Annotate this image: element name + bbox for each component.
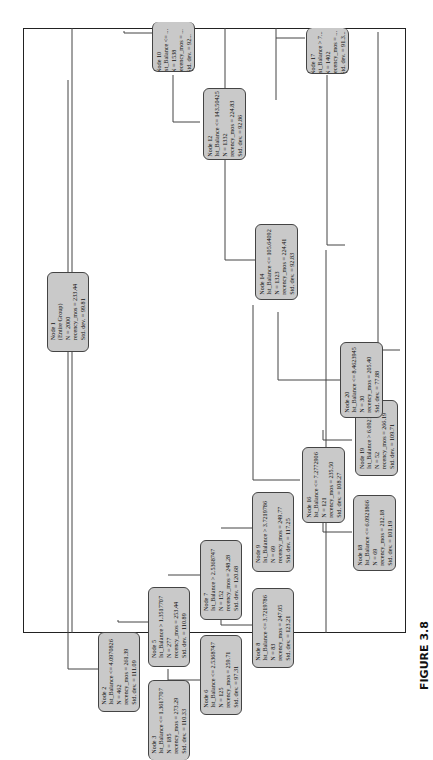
tree-node-20: Node 20 Ist_Balance <= 8.4623945 N = 30 … [340,342,383,418]
node-line: recency_mos = 266.19 [380,407,387,469]
tree-node-12: Node 12 Ist_Balance <= 143.50425 N = 133… [203,88,246,160]
node-line: Ist_Balance <= 105.64092 [265,229,272,295]
node-line: N = 1538 [170,29,177,72]
edge-n10 [124,31,152,33]
tree-node-10: Node 10 Ist_Balance <= ... N = 1538 rece… [152,22,195,72]
node-line: Std. dev. = 117.25 [284,501,291,563]
edge-n5-n6 [168,669,200,680]
edge-n16-n19 [323,430,352,440]
tree-node-7: Node 7 Ist_Balance > 2.5368747 N = 152 r… [200,540,242,620]
node-line: recency_mos = 235.50 [327,452,334,518]
node-line: N = 152 [217,549,224,611]
node-line: recency_mos = 261.39 [123,639,130,705]
node-title: Node 10 [155,29,162,72]
node-line: recency_mos = 259.71 [225,642,232,708]
node-title: Node 18 [356,500,363,566]
tree-node-16: Node 16 Ist_Balance <= 7.2772906 N = 121… [302,447,345,523]
node-line: Ist_Balance <= 6.0921866 [363,500,370,566]
node-line: Std. dev. = 92... [185,29,192,72]
node-line: Std. dev. = 109.71 [388,407,395,469]
node-title: Node 17 [309,31,316,74]
node-line: Std. dev. = 91.3... [339,31,346,74]
node-line: N = 83 [269,595,276,661]
node-line: recency_mos = 233.44 [72,284,79,340]
node-line: N = 277 [165,596,172,658]
node-title: Node 2 [100,639,107,705]
figure-caption: FIGURE 3.8 [418,621,431,690]
node-line: Std. dev. = 92.83 [288,229,295,295]
node-line: recency_mos = 205.40 [365,347,372,413]
tree-node-3: Node 3 Ist_Balance <= 1.3617707 N = 185 … [148,680,190,760]
node-line: N = 2000 [64,284,71,340]
node-line: Ist_Balance <= 8.4623945 [350,347,357,413]
node-line: N = 1332 [221,91,228,157]
node-line: Ist_Balance <= 7.2772906 [312,452,319,518]
edge-n10-n12 [173,120,200,122]
node-line: Std. dev. = 120.68 [232,549,239,611]
node-line: recency_mos = 273.29 [173,688,180,754]
node-line: Std. dev. = 77.88 [373,347,380,413]
node-line: Ist_Balance <= 4.0970826 [108,639,115,705]
tree-node-8: Node 8 Ist_Balance <= 3.7219786 N = 83 r… [252,588,294,668]
node-line: recency_mos = 224.83 [228,91,235,157]
node-line: recency_mos = 249.77 [277,501,284,563]
tree-node-14: Node 14 Ist_Balance <= 105.64092 N = 132… [255,224,298,300]
node-line: Ist_Balance <= 143.50425 [213,91,220,157]
node-title: Node 8 [254,595,261,661]
node-line: Std. dev. = 108.27 [335,452,342,518]
edge-n14-n16 [253,305,300,480]
node-line: Std. dev. = 110.89 [180,596,187,658]
node-title: Node 6 [202,642,209,708]
node-line: recency_mos = 247.05 [277,595,284,661]
tree-node-9: Node 9 Ist_Balance > 3.7219786 N = 69 re… [252,492,294,572]
node-title: Node 12 [206,91,213,157]
node-line: Std. dev. = 123.21 [284,595,291,661]
tree-node-18: Node 18 Ist_Balance <= 6.0921866 N = 69 … [353,495,396,571]
edge-n1-n2 [68,80,100,669]
node-line: N = 69 [371,500,378,566]
node-line: Std. dev. = 92.86 [236,91,243,157]
node-title: Node 20 [343,347,350,413]
tree-node-2: Node 2 Ist_Balance <= 4.0970826 N = 462 … [98,632,140,712]
tree-node-5: Node 5 Ist_Balance > 1.3517707 N = 277 r… [148,587,190,667]
node-line: (Entire Group) [57,284,64,340]
node-line: Std. dev. = 111.09 [130,639,137,705]
node-line: recency_mos = ... [177,29,184,72]
node-line: N = 462 [115,639,122,705]
node-line: recency_mos = 212.18 [378,500,385,566]
node-title: Node 9 [254,501,261,563]
node-line: N = 1323 [273,229,280,295]
node-line: recency_mos = 224.41 [280,229,287,295]
node-line: Std. dev. = 99.81 [79,284,86,340]
node-title: Node 3 [150,688,157,754]
node-line: N = 30 [358,347,365,413]
node-line: Std. dev. = 101.19 [386,500,393,566]
node-line: Ist_Balance > 3.7219786 [262,501,269,563]
tree-node-6: Node 6 Ist_Balance <= 2.5368747 N = 125 … [200,635,242,715]
node-title: Node 14 [258,229,265,295]
node-line: Ist_Balance > 7... [316,31,323,74]
node-line: Ist_Balance <= 1.3617707 [158,688,165,754]
node-line: Ist_Balance > 2.5368747 [210,549,217,611]
tree-node-1: Node 1 (Entire Group) N = 2000 recency_m… [47,272,89,352]
node-line: recency_mos = ... [331,31,338,74]
node-line: recency_mos = 248.28 [225,549,232,611]
edge-n14-n20 [278,312,340,380]
edge-n2-n5 [118,620,148,622]
node-line: N = 1402 [324,31,331,74]
tree-node-17: Node 17 Ist_Balance > 7... N = 1402 rece… [306,28,349,74]
edge-n12-n14 [225,160,255,260]
node-title: Node 16 [305,452,312,518]
node-line: Ist_Balance <= ... [162,29,169,72]
node-line: N = 121 [320,452,327,518]
edge-n16-n18 [323,522,352,532]
node-line: Ist_Balance > 1.3517707 [158,596,165,658]
node-title: Node 5 [150,596,157,658]
node-line: N = 125 [217,642,224,708]
node-title: Node 7 [202,549,209,611]
node-line: Std. dev. = 97.31 [232,642,239,708]
node-line: Std. dev. = 110.33 [180,688,187,754]
node-line: Ist_Balance <= 3.7219786 [262,595,269,661]
node-line: recency_mos = 253.44 [173,596,180,658]
node-line: Ist_Balance <= 2.5368747 [210,642,217,708]
